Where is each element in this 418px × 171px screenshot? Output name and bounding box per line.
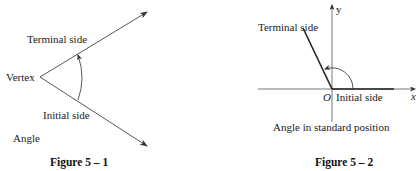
vertex-label: Vertex — [6, 71, 35, 83]
figure-caption: Figure 5 – 1 — [50, 156, 108, 169]
terminal-side-label: Terminal side — [27, 33, 87, 45]
figure-caption: Figure 5 – 2 — [315, 156, 373, 169]
subtitle-label: Angle in standard position — [273, 121, 390, 133]
initial-side-label: Initial side — [336, 91, 383, 103]
y-axis-label: y — [336, 3, 342, 15]
terminal-side-ray — [303, 28, 332, 89]
figure-5-1: Terminal side Vertex Initial side Angle … — [6, 12, 147, 169]
angle-arc — [325, 68, 353, 89]
angle-label: Angle — [13, 132, 40, 144]
figures-canvas: Terminal side Vertex Initial side Angle … — [0, 0, 418, 171]
figure-5-2: Terminal side y O Initial side x Angle i… — [258, 3, 416, 169]
initial-side-label: Initial side — [43, 109, 90, 121]
x-axis-label: x — [410, 90, 416, 102]
terminal-side-label: Terminal side — [258, 21, 318, 33]
angle-arc — [78, 55, 82, 100]
origin-label: O — [323, 91, 331, 103]
